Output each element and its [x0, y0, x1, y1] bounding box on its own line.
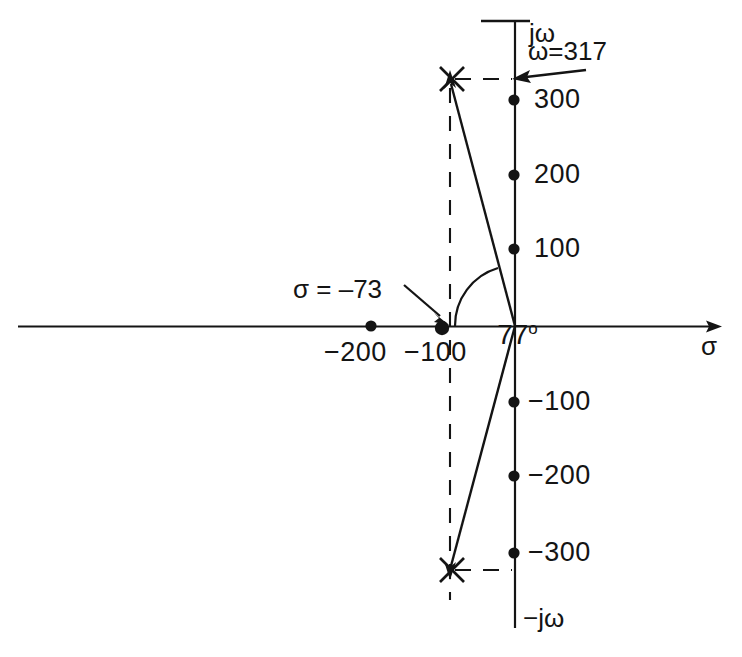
tick-label-100: 100: [534, 235, 581, 262]
tick-dot-100: [508, 243, 519, 254]
omega-317-leader-arrow: [512, 70, 586, 83]
real-tick-label-neg100: −100: [404, 339, 467, 366]
angle-value-text: 77: [497, 319, 528, 350]
tick-label-neg300: −300: [528, 539, 591, 566]
tick-label-neg200: −200: [528, 462, 591, 489]
tick-dot-300: [508, 94, 519, 105]
root-locus-figure: jω −jω σ ω=317 σ = –73 77o 300 200 100 −…: [0, 0, 742, 657]
tick-dot-200: [508, 169, 519, 180]
tick-dot-neg300: [508, 547, 519, 558]
tick-dot-neg100: [508, 396, 519, 407]
negative-jomega-axis-label: −jω: [523, 605, 564, 631]
radial-line-upper: [451, 84, 515, 326]
omega-317-annotation: ω=317: [528, 38, 607, 64]
tick-dot-real-neg200: [365, 320, 376, 331]
sigma-axis-label: σ: [701, 333, 717, 359]
tick-label-neg100: −100: [528, 388, 591, 415]
tick-label-200: 200: [534, 161, 581, 188]
angle-77-annotation: 77o: [466, 292, 538, 377]
sigma-73-annotation: σ = –73: [293, 276, 382, 302]
degree-sign-icon: o: [528, 319, 537, 338]
sigma-73-leader-arrow: [404, 285, 449, 325]
tick-label-300: 300: [534, 86, 581, 113]
real-tick-label-neg200: −200: [324, 339, 387, 366]
plot-canvas: [0, 0, 742, 657]
sigma-73-arrowhead: [434, 313, 449, 325]
tick-dot-neg200: [508, 470, 519, 481]
real-axis-tick-dots: [365, 320, 449, 335]
